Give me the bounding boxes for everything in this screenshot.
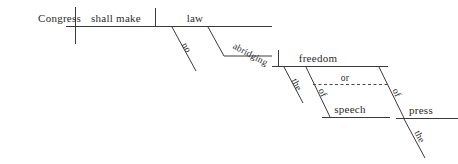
sentence-diagram: Congress shall make law no abridging fre…: [0, 0, 458, 164]
sentence-diagram-canvas: Congress shall make law no abridging fre…: [0, 0, 458, 164]
abridging-slant: [208, 27, 224, 56]
word-the-press: the: [412, 129, 427, 144]
word-of-press: of: [390, 87, 403, 99]
word-freedom: freedom: [299, 52, 338, 64]
word-no: no: [180, 41, 194, 55]
word-speech: speech: [334, 103, 366, 115]
word-the-freedom: the: [289, 77, 304, 92]
word-abridging: abridging: [231, 41, 269, 68]
word-press: press: [409, 104, 433, 116]
word-congress: Congress: [38, 12, 81, 24]
word-law: law: [187, 12, 204, 24]
word-or: or: [341, 73, 350, 83]
word-shall-make: shall make: [91, 12, 141, 24]
word-of-speech: of: [316, 87, 329, 99]
